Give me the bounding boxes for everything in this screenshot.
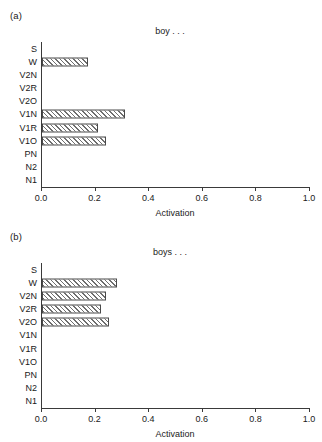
x-axis-tick xyxy=(41,408,42,412)
y-axis-category-label: S xyxy=(31,265,37,275)
x-axis-tick-label: 0.2 xyxy=(88,414,101,424)
x-axis-tick-label: 0.8 xyxy=(249,193,262,203)
bar xyxy=(42,57,88,66)
y-axis-category-label: PN xyxy=(24,149,37,159)
figure: (a) boy . . . SWV2NV2RV2OV1NV1RV1OPNN2N1… xyxy=(0,0,322,442)
panel-title-b: boys . . . xyxy=(0,247,322,257)
x-axis-tick xyxy=(95,187,96,191)
x-axis-tick-label: 1.0 xyxy=(303,193,316,203)
bar xyxy=(42,305,101,314)
y-axis-category-label: N1 xyxy=(25,396,37,406)
x-axis-tick-label: 0.8 xyxy=(249,414,262,424)
x-axis-tick-label: 0.0 xyxy=(35,414,48,424)
bar-row: V1R xyxy=(41,121,309,134)
y-axis-category-label: PN xyxy=(24,370,37,380)
bar xyxy=(42,291,106,300)
y-axis-category-label: N2 xyxy=(25,383,37,393)
bar-row: V2N xyxy=(41,68,309,81)
chart-panel-b: (b) boys . . . SWV2NV2RV2OV1NV1RV1OPNN2N… xyxy=(0,221,322,442)
bar-row: N1 xyxy=(41,395,309,408)
panel-label-a: (a) xyxy=(10,10,22,21)
y-axis-category-label: V1N xyxy=(19,109,37,119)
bar-row: V2O xyxy=(41,95,309,108)
x-axis-tick-label: 0.0 xyxy=(35,193,48,203)
x-axis-tick xyxy=(148,408,149,412)
bar-row: V1O xyxy=(41,134,309,147)
x-axis-tick xyxy=(255,408,256,412)
bar xyxy=(42,318,109,327)
bar-row: V2R xyxy=(41,303,309,316)
x-axis-tick-labels-b: 0.00.20.40.60.81.0 xyxy=(41,414,309,428)
bar-row: N1 xyxy=(41,174,309,187)
panel-label-b: (b) xyxy=(10,231,22,242)
x-axis-tick-label: 0.4 xyxy=(142,414,155,424)
y-axis-category-label: V2R xyxy=(19,304,37,314)
bar-row: N2 xyxy=(41,161,309,174)
bar-row: W xyxy=(41,276,309,289)
y-axis-category-label: W xyxy=(29,57,38,67)
x-axis-title-a: Activation xyxy=(41,208,309,218)
bar-row: N2 xyxy=(41,382,309,395)
x-axis-tick-labels-a: 0.00.20.40.60.81.0 xyxy=(41,193,309,207)
x-axis-tick-label: 0.2 xyxy=(88,193,101,203)
x-axis-tick-label: 1.0 xyxy=(303,414,316,424)
panel-title-a: boy . . . xyxy=(0,26,322,36)
bar xyxy=(42,136,106,145)
bar xyxy=(42,123,98,132)
x-axis-tick xyxy=(255,187,256,191)
x-axis-tick-label: 0.4 xyxy=(142,193,155,203)
plot-area-a: SWV2NV2RV2OV1NV1RV1OPNN2N1 0.00.20.40.60… xyxy=(41,42,309,187)
plot-area-b: SWV2NV2RV2OV1NV1RV1OPNN2N1 0.00.20.40.60… xyxy=(41,263,309,408)
y-axis-category-label: V2N xyxy=(19,70,37,80)
bar xyxy=(42,110,125,119)
x-axis-tick xyxy=(41,187,42,191)
bar-row: PN xyxy=(41,368,309,381)
y-axis-category-label: V2O xyxy=(19,96,37,106)
y-axis-category-label: V2O xyxy=(19,317,37,327)
y-axis-category-label: V2R xyxy=(19,83,37,93)
bar-row: V1R xyxy=(41,342,309,355)
x-axis-tick xyxy=(202,187,203,191)
bar-row: V2N xyxy=(41,289,309,302)
bar-row: V1N xyxy=(41,108,309,121)
y-axis-category-label: N2 xyxy=(25,162,37,172)
bar-row: S xyxy=(41,263,309,276)
chart-panel-a: (a) boy . . . SWV2NV2RV2OV1NV1RV1OPNN2N1… xyxy=(0,0,322,221)
y-axis-category-label: V1O xyxy=(19,136,37,146)
x-axis-tick xyxy=(202,408,203,412)
y-axis-category-label: S xyxy=(31,44,37,54)
y-axis-category-label: W xyxy=(29,278,38,288)
bar-row: V1N xyxy=(41,329,309,342)
y-axis-category-label: V1O xyxy=(19,357,37,367)
bar-row: V2R xyxy=(41,82,309,95)
x-axis-title-b: Activation xyxy=(41,429,309,439)
x-axis-tick-label: 0.6 xyxy=(196,193,209,203)
bar-row: V2O xyxy=(41,316,309,329)
bar-row: W xyxy=(41,55,309,68)
bar-row: PN xyxy=(41,147,309,160)
y-axis-category-label: V1R xyxy=(19,123,37,133)
bar-rows-b: SWV2NV2RV2OV1NV1RV1OPNN2N1 xyxy=(41,263,309,408)
bar-row: V1O xyxy=(41,355,309,368)
y-axis-category-label: V2N xyxy=(19,291,37,301)
x-axis-tick xyxy=(309,187,310,191)
x-axis-tick-label: 0.6 xyxy=(196,414,209,424)
y-axis-category-label: N1 xyxy=(25,175,37,185)
bar-rows-a: SWV2NV2RV2OV1NV1RV1OPNN2N1 xyxy=(41,42,309,187)
y-axis-category-label: V1N xyxy=(19,330,37,340)
bar xyxy=(42,278,117,287)
x-axis-tick xyxy=(309,408,310,412)
y-axis-category-label: V1R xyxy=(19,344,37,354)
x-axis-tick xyxy=(95,408,96,412)
bar-row: S xyxy=(41,42,309,55)
x-axis-tick xyxy=(148,187,149,191)
